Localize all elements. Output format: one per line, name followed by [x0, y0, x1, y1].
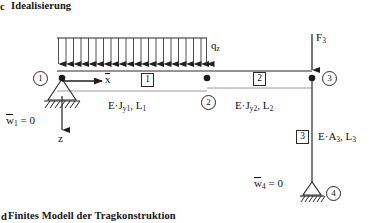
node-label-3: 3	[322, 71, 337, 86]
distributed-load-label: qz	[211, 40, 220, 51]
bc4-symbol: w	[254, 178, 262, 189]
element-box-1: 1	[141, 73, 154, 87]
z-axis-label: z	[58, 133, 63, 144]
figure-canvas: c Idealisierung d Finites Modell der Tra…	[0, 0, 384, 223]
node-label-4: 4	[326, 186, 341, 201]
node-dot-2	[204, 75, 211, 82]
support-node-4	[300, 182, 325, 202]
e3-modulus: E	[318, 130, 325, 142]
bc1-symbol: w	[6, 115, 14, 126]
bc1-value: = 0	[20, 114, 34, 126]
e2-length-sub: 2	[269, 104, 273, 113]
e1-modulus: E	[108, 99, 115, 111]
node-dot-3	[309, 75, 316, 82]
e2-inertia-sub: y2	[250, 104, 258, 113]
bc1-subscript: 1	[14, 119, 18, 128]
element-1-properties: E·Jy1, L1	[108, 100, 146, 111]
distributed-load-arrows	[59, 38, 207, 64]
q-symbol: q	[211, 39, 217, 51]
boundary-condition-1: w1 = 0	[6, 115, 35, 126]
bc4-value: = 0	[268, 177, 282, 189]
x-axis-label: x	[105, 74, 111, 85]
support-triangle-4	[303, 182, 321, 195]
bc4-subscript: 4	[262, 182, 266, 191]
element-3-properties: E·A3, L3	[318, 131, 356, 142]
point-load-label: F3	[316, 32, 326, 43]
z-axis-symbol: z	[58, 132, 63, 144]
node-label-1: 1	[33, 71, 48, 86]
e1-comma: ,	[130, 99, 133, 111]
e1-inertia-sub: y1	[123, 104, 131, 113]
distributed-load-group	[57, 38, 207, 64]
support-hatching-4	[301, 196, 325, 202]
boundary-condition-4: w4 = 0	[254, 178, 283, 189]
e1-length-sub: 1	[142, 104, 146, 113]
f-subscript: 3	[322, 36, 326, 45]
x-axis-symbol: x	[105, 74, 111, 85]
e3-area-sub: 3	[336, 135, 340, 144]
node-dot-1	[59, 75, 66, 82]
element-box-2: 2	[253, 72, 266, 86]
e2-modulus: E	[235, 99, 242, 111]
q-subscript: z	[217, 44, 220, 53]
e3-length-sub: 3	[352, 135, 356, 144]
node-label-2: 2	[201, 95, 216, 110]
element-2-properties: E·Jy2, L2	[235, 100, 273, 111]
element-box-3: 3	[296, 130, 309, 144]
e3-comma: ,	[340, 130, 343, 142]
e2-comma: ,	[257, 99, 260, 111]
